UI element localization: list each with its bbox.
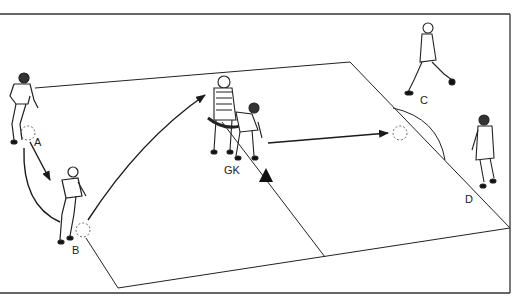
pitch-outline xyxy=(35,62,510,288)
player-d xyxy=(472,115,496,188)
label-b: B xyxy=(72,244,79,256)
run-arc-a xyxy=(24,148,60,222)
cone-icon xyxy=(259,168,273,182)
player-a xyxy=(10,73,38,144)
label-a: A xyxy=(34,136,41,148)
player-b xyxy=(58,167,86,244)
label-c: C xyxy=(420,94,428,106)
arrow-gk-to-c xyxy=(268,133,388,143)
label-d: D xyxy=(465,193,473,205)
goalkeeper-group xyxy=(208,76,262,160)
player-c xyxy=(405,23,455,95)
pass-arrows xyxy=(24,95,388,222)
arrow-b-to-gk xyxy=(88,95,205,220)
label-gk: GK xyxy=(224,164,240,176)
